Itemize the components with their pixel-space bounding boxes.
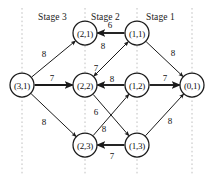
edge-weight-e-12-22: 8 bbox=[110, 74, 115, 84]
node-label-n-2-3: (2,3) bbox=[77, 141, 93, 151]
edge-weight-e-11-22: 8 bbox=[101, 41, 106, 51]
edge-e-31-23 bbox=[31, 94, 76, 137]
edge-weight-e-11-21: 6 bbox=[108, 20, 113, 30]
edge-weight-e-12-01: 7 bbox=[163, 73, 168, 83]
edge-weight-e-31-23: 8 bbox=[42, 117, 47, 127]
edge-weight-e-23-12: 8 bbox=[102, 124, 107, 134]
edge-weight-e-11-01: 8 bbox=[171, 48, 176, 58]
node-label-n-2-1: (2,1) bbox=[77, 29, 93, 39]
stage-label-stage-1: Stage 1 bbox=[146, 12, 175, 22]
network-diagram-figure: Stage 3Stage 2Stage 1 (3,1)(2,1)(2,2)(2,… bbox=[0, 0, 219, 180]
node-label-n-1-3: (1,3) bbox=[129, 141, 145, 151]
stage-label-stage-3: Stage 3 bbox=[38, 12, 67, 22]
edge-weight-e-31-22: 7 bbox=[50, 73, 55, 83]
node-label-n-2-2: (2,2) bbox=[77, 81, 93, 91]
node-label-n-3-1: (3,1) bbox=[14, 81, 30, 91]
node-label-n-1-2: (1,2) bbox=[129, 81, 145, 91]
edge-weight-e-13-23: 7 bbox=[110, 151, 115, 161]
edge-e-11-01 bbox=[146, 42, 183, 77]
stage-label-stage-2: Stage 2 bbox=[91, 12, 120, 22]
edge-e-13-01 bbox=[146, 94, 184, 135]
edge-weight-e-22-11: 7 bbox=[94, 63, 99, 73]
edge-weight-e-13-01: 8 bbox=[168, 116, 173, 126]
node-label-n-1-1: (1,1) bbox=[129, 29, 145, 39]
node-layer bbox=[10, 21, 204, 157]
edge-e-31-21 bbox=[32, 41, 76, 77]
edge-e-22-11 bbox=[94, 42, 128, 76]
edge-weight-e-31-21: 8 bbox=[42, 49, 47, 59]
edge-layer bbox=[31, 33, 183, 145]
node-label-n-0-1: (0,1) bbox=[184, 81, 200, 91]
edge-weight-e-22-13: 6 bbox=[94, 107, 99, 117]
